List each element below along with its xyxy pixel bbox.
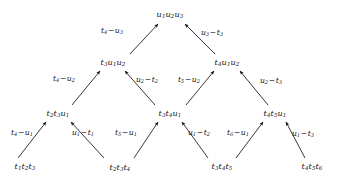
- edge-label-t4-u2: t4−u2: [53, 75, 75, 83]
- node-u1u2u3: u1u2u3: [157, 10, 184, 19]
- node-t2t3u1: t2t3u1: [47, 109, 70, 118]
- node-t4t5u1: t4t5u1: [264, 109, 287, 118]
- node-t3t4u1: t3t4u1: [159, 109, 182, 118]
- node-t4u1u2: t4u1u2: [215, 58, 240, 67]
- edge-label-u3-t3: u3−t3: [201, 29, 223, 37]
- node-t4t5t6: t4t5t6: [302, 162, 323, 171]
- arrow-n1-to-n0: [130, 24, 158, 54]
- edge-label-u2-t3: u2−t3: [260, 77, 282, 85]
- diagram-canvas: u1u2u3t3u1u2t4u1u2t2t3u1t3t4u1t4t5u1t1t2…: [0, 0, 339, 180]
- edge-layer: [0, 0, 339, 180]
- arrow-n3-to-n1: [72, 71, 100, 105]
- edge-label-u1-t1: u1−t1: [72, 129, 94, 137]
- arrow-n9-to-n5: [286, 122, 305, 158]
- node-t3u1u2: t3u1u2: [101, 58, 126, 67]
- node-t1t2t3: t1t2t3: [15, 162, 36, 171]
- edge-label-t5-u1: t5−u1: [115, 129, 137, 137]
- node-t2t3t4: t2t3t4: [110, 163, 131, 172]
- edge-arrows: [18, 24, 305, 158]
- edge-label-u2-t2: u2−t2: [136, 76, 158, 84]
- edge-label-t5-u2: t5−u2: [178, 76, 200, 84]
- node-t3t4t5: t3t4t5: [212, 162, 233, 171]
- arrow-n7-to-n4: [134, 122, 158, 158]
- edge-label-u1-t2: u1−t2: [188, 129, 210, 137]
- edge-label-t4-u3: t4−u3: [101, 27, 123, 35]
- edge-label-t6-u1: t6−u1: [227, 129, 249, 137]
- edge-label-t4-u1: t4−u1: [11, 129, 33, 137]
- edge-label-u1-t3: u1−t3: [292, 130, 314, 138]
